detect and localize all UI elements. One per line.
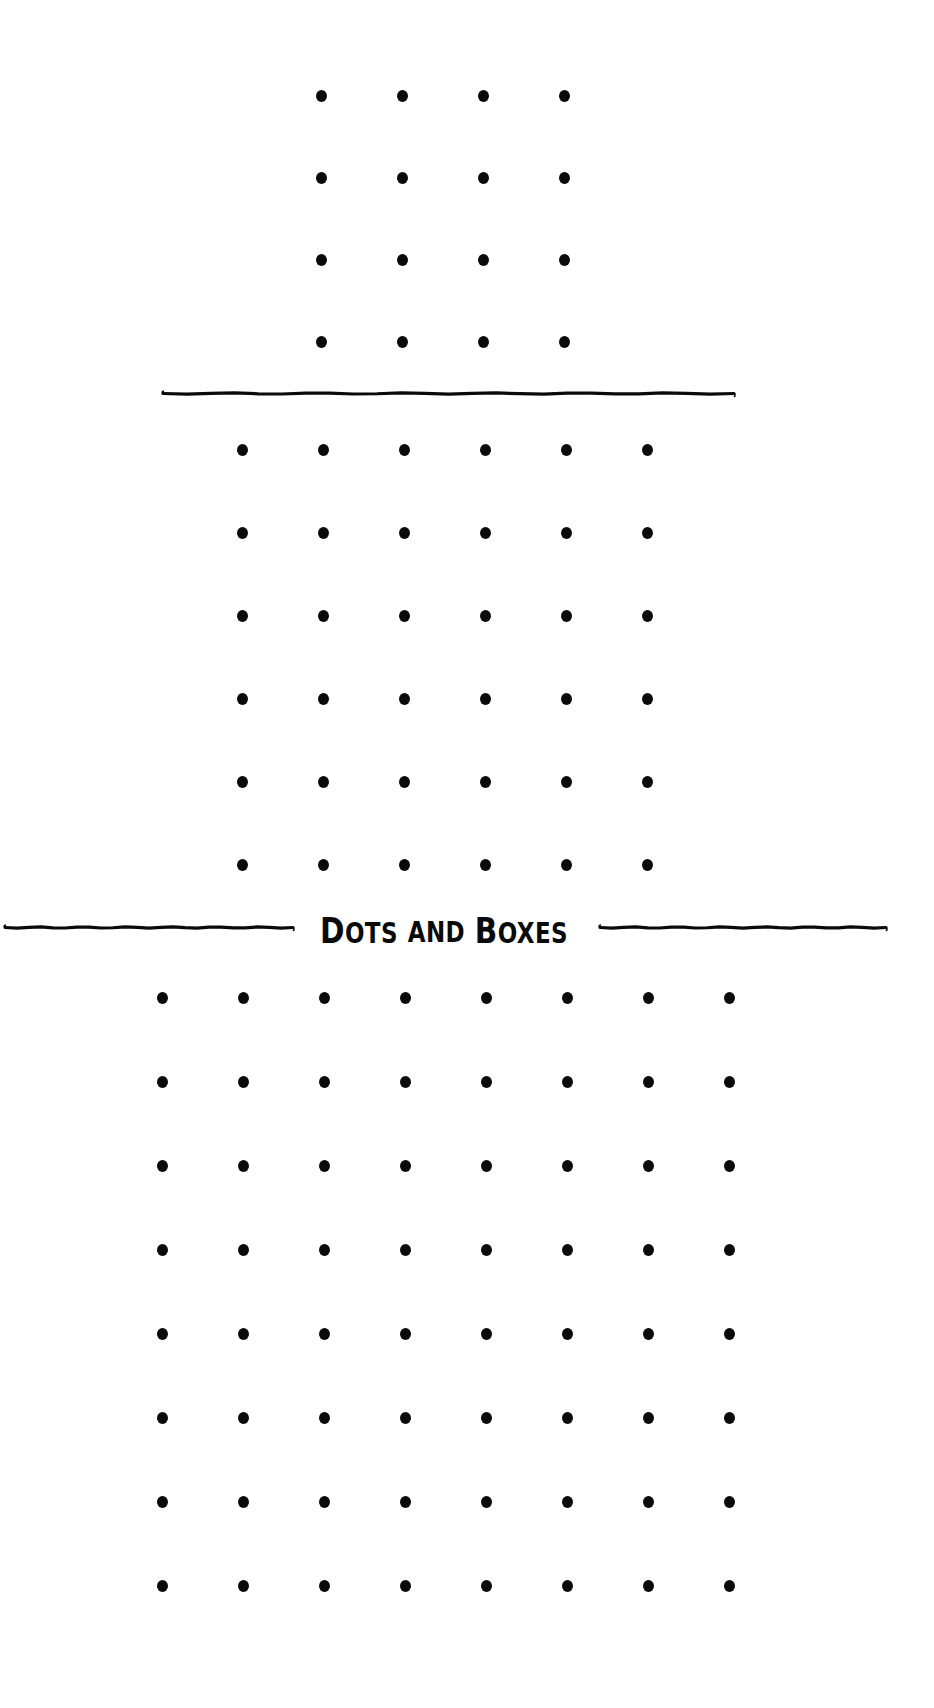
grid-dot[interactable]: [157, 1328, 168, 1340]
grid-dot[interactable]: [318, 776, 329, 788]
grid-dot[interactable]: [481, 1160, 492, 1172]
grid-dot[interactable]: [480, 693, 491, 705]
grid-dot[interactable]: [478, 254, 489, 266]
grid-dot[interactable]: [319, 1412, 330, 1424]
grid-dot[interactable]: [318, 693, 329, 705]
grid-dot[interactable]: [400, 1580, 411, 1592]
grid-dot[interactable]: [318, 527, 329, 539]
grid-dot[interactable]: [481, 992, 492, 1004]
grid-dot[interactable]: [238, 1580, 249, 1592]
grid-dot[interactable]: [642, 859, 653, 871]
grid-dot[interactable]: [400, 1160, 411, 1172]
grid-dot[interactable]: [238, 1412, 249, 1424]
grid-dot[interactable]: [237, 527, 248, 539]
grid-dot[interactable]: [237, 693, 248, 705]
grid-dot[interactable]: [562, 992, 573, 1004]
grid-dot[interactable]: [561, 444, 572, 456]
grid-dot[interactable]: [480, 859, 491, 871]
grid-dot[interactable]: [238, 1244, 249, 1256]
grid-dot[interactable]: [238, 1076, 249, 1088]
grid-dot[interactable]: [642, 693, 653, 705]
grid-dot[interactable]: [400, 1244, 411, 1256]
grid-dot[interactable]: [400, 1076, 411, 1088]
grid-dot[interactable]: [481, 1496, 492, 1508]
grid-dot[interactable]: [724, 1580, 735, 1592]
grid-dot[interactable]: [724, 1412, 735, 1424]
grid-dot[interactable]: [643, 1328, 654, 1340]
grid-dot[interactable]: [157, 1496, 168, 1508]
grid-dot[interactable]: [157, 1580, 168, 1592]
grid-dot[interactable]: [400, 992, 411, 1004]
grid-dot[interactable]: [481, 1328, 492, 1340]
grid-dot[interactable]: [481, 1412, 492, 1424]
grid-dot[interactable]: [724, 1160, 735, 1172]
grid-dot[interactable]: [559, 336, 570, 348]
grid-dot[interactable]: [400, 1496, 411, 1508]
grid-dot[interactable]: [397, 254, 408, 266]
grid-dot[interactable]: [481, 1244, 492, 1256]
grid-dot[interactable]: [643, 1076, 654, 1088]
grid-dot[interactable]: [561, 693, 572, 705]
grid-dot[interactable]: [399, 610, 410, 622]
grid-dot[interactable]: [724, 1328, 735, 1340]
grid-dot[interactable]: [319, 1496, 330, 1508]
grid-dot[interactable]: [562, 1244, 573, 1256]
grid-dot[interactable]: [318, 859, 329, 871]
grid-dot[interactable]: [237, 444, 248, 456]
grid-dot[interactable]: [478, 90, 489, 102]
grid-dot[interactable]: [399, 776, 410, 788]
grid-dot[interactable]: [399, 444, 410, 456]
grid-dot[interactable]: [642, 610, 653, 622]
grid-dot[interactable]: [318, 444, 329, 456]
grid-dot[interactable]: [319, 992, 330, 1004]
grid-dot[interactable]: [316, 172, 327, 184]
grid-dot[interactable]: [562, 1580, 573, 1592]
grid-dot[interactable]: [561, 527, 572, 539]
grid-dot[interactable]: [562, 1160, 573, 1172]
grid-dot[interactable]: [559, 254, 570, 266]
grid-dot[interactable]: [238, 992, 249, 1004]
grid-dot[interactable]: [319, 1244, 330, 1256]
grid-dot[interactable]: [562, 1076, 573, 1088]
grid-dot[interactable]: [642, 444, 653, 456]
grid-dot[interactable]: [480, 527, 491, 539]
grid-dot[interactable]: [237, 859, 248, 871]
grid-dot[interactable]: [238, 1160, 249, 1172]
grid-dot[interactable]: [478, 172, 489, 184]
grid-dot[interactable]: [237, 776, 248, 788]
grid-dot[interactable]: [561, 610, 572, 622]
grid-dot[interactable]: [480, 610, 491, 622]
grid-dot[interactable]: [481, 1580, 492, 1592]
grid-dot[interactable]: [399, 693, 410, 705]
grid-dot[interactable]: [480, 776, 491, 788]
grid-dot[interactable]: [559, 172, 570, 184]
grid-dot[interactable]: [561, 859, 572, 871]
grid-dot[interactable]: [724, 1496, 735, 1508]
grid-dot[interactable]: [643, 1244, 654, 1256]
grid-dot[interactable]: [316, 336, 327, 348]
grid-dot[interactable]: [237, 610, 248, 622]
grid-dot[interactable]: [318, 610, 329, 622]
grid-dot[interactable]: [642, 776, 653, 788]
grid-dot[interactable]: [157, 1076, 168, 1088]
grid-dot[interactable]: [157, 1160, 168, 1172]
grid-dot[interactable]: [399, 527, 410, 539]
grid-dot[interactable]: [397, 172, 408, 184]
grid-dot[interactable]: [562, 1412, 573, 1424]
grid-dot[interactable]: [559, 90, 570, 102]
grid-dot[interactable]: [478, 336, 489, 348]
grid-dot[interactable]: [643, 1496, 654, 1508]
grid-dot[interactable]: [316, 254, 327, 266]
grid-dot[interactable]: [643, 1412, 654, 1424]
grid-dot[interactable]: [561, 776, 572, 788]
grid-dot[interactable]: [724, 1076, 735, 1088]
grid-dot[interactable]: [642, 527, 653, 539]
grid-dot[interactable]: [399, 859, 410, 871]
grid-dot[interactable]: [316, 90, 327, 102]
grid-dot[interactable]: [643, 992, 654, 1004]
grid-dot[interactable]: [319, 1328, 330, 1340]
grid-dot[interactable]: [643, 1160, 654, 1172]
grid-dot[interactable]: [319, 1160, 330, 1172]
grid-dot[interactable]: [724, 1244, 735, 1256]
grid-dot[interactable]: [238, 1328, 249, 1340]
